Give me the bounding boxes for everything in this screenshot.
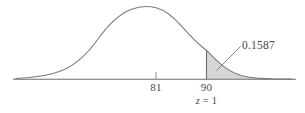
shaded-tail-area bbox=[207, 50, 291, 79]
z-equals-sign: = bbox=[200, 95, 212, 106]
normal-distribution-figure: 81 90 z = 1 0.1587 bbox=[0, 0, 305, 113]
x-axis-tick-label-mean: 81 bbox=[150, 82, 161, 93]
z-score-label: z = 1 bbox=[196, 96, 218, 107]
x-axis-tick-label-boundary: 90 bbox=[201, 82, 212, 93]
distribution-curve-graphic bbox=[0, 0, 305, 113]
z-value: 1 bbox=[212, 95, 217, 106]
tail-area-value-label: 0.1587 bbox=[242, 40, 275, 52]
area-label-leader-line bbox=[217, 47, 241, 71]
